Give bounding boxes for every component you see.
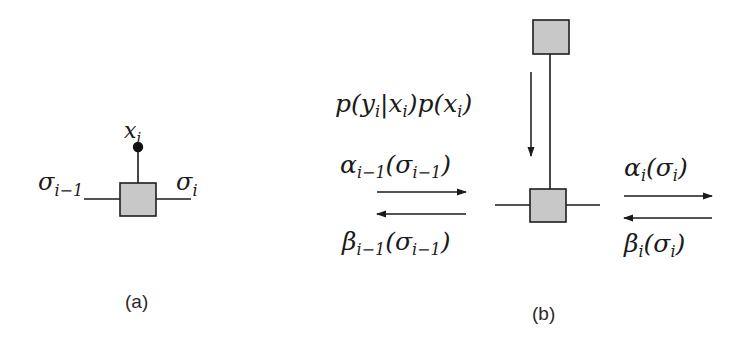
alpha-right-label: αi(σi) [624, 153, 688, 185]
evidence-message-label: p(yi|xi)p(xi) [335, 89, 472, 121]
factor-graph-diagram: xi σi−1 σi (a) p(yi|xi)p(xi) αi−1(σi−1) [0, 0, 751, 348]
left-edge-label: σi−1 [38, 168, 83, 200]
panel-a-caption: (a) [125, 291, 148, 312]
variable-label: xi [124, 118, 141, 147]
right-edge-label: σi [176, 168, 198, 200]
evidence-factor-node [533, 20, 569, 54]
alpha-left-label: αi−1(σi−1) [340, 150, 451, 182]
chain-factor-node [530, 189, 566, 222]
panel-b: p(yi|xi)p(xi) αi−1(σi−1) βi−1(σi−1) αi(σ… [335, 20, 712, 324]
factor-node [120, 183, 156, 216]
beta-left-label: βi−1(σi−1) [341, 227, 450, 259]
panel-b-caption: (b) [532, 303, 555, 324]
beta-right-label: βi(σi) [623, 229, 685, 261]
panel-a: xi σi−1 σi (a) [38, 118, 198, 312]
